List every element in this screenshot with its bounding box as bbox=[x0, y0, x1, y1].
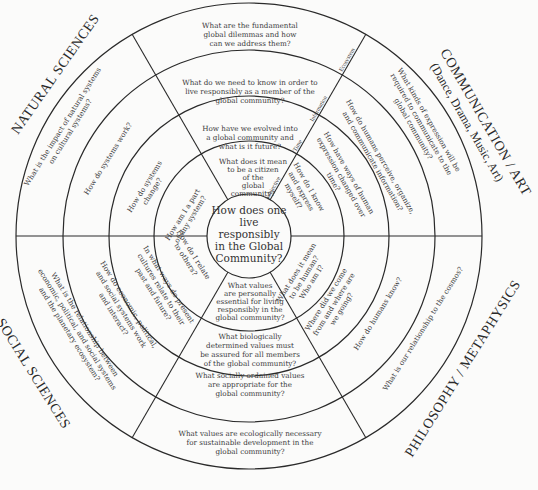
svg-text:of the global community?: of the global community? bbox=[204, 359, 297, 368]
svg-text:in the Global: in the Global bbox=[215, 240, 284, 252]
svg-text:what is it future?: what is it future? bbox=[219, 142, 281, 151]
axis-label-ecosystem: Ecosystem bbox=[338, 47, 356, 73]
bottom-column: What values are personally essential for… bbox=[179, 281, 323, 456]
svg-text:How do humans know?: How do humans know? bbox=[352, 275, 405, 352]
svg-text:What are the fundamental: What are the fundamental bbox=[202, 21, 298, 30]
svg-text:Community?: Community? bbox=[216, 252, 283, 264]
top-q-ring4: What do we need to know in order to live… bbox=[182, 78, 317, 105]
svg-text:What do we need to know in ord: What do we need to know in order to bbox=[182, 78, 317, 87]
bottom-q-ring2: What values are personally essential for… bbox=[215, 281, 284, 322]
svg-text:How does one: How does one bbox=[211, 204, 286, 216]
lower-right-questions: What does it mean to be human? Who am I?… bbox=[274, 241, 465, 393]
svg-text:global community?: global community? bbox=[215, 447, 284, 456]
svg-text:What biologically: What biologically bbox=[218, 332, 282, 341]
svg-text:for sustainable development in: for sustainable development in the bbox=[187, 438, 314, 447]
bottom-q-outer: What values are ecologically necessary f… bbox=[179, 429, 323, 456]
center-question: How does one live responsibly in the Glo… bbox=[211, 204, 286, 264]
lr-q-ring4: How do humans know? bbox=[352, 275, 405, 352]
svg-text:How do systems work?: How do systems work? bbox=[82, 121, 134, 197]
global-community-diagram: How does one live responsibly in the Glo… bbox=[0, 0, 538, 490]
top-q-outer: What are the fundamental global dilemmas… bbox=[202, 21, 298, 48]
svg-text:a global community and: a global community and bbox=[206, 133, 294, 142]
svg-text:global community?: global community? bbox=[215, 389, 284, 398]
svg-text:be assured for all members: be assured for all members bbox=[200, 350, 300, 359]
svg-text:are appropriate for the: are appropriate for the bbox=[208, 380, 292, 389]
svg-text:What socially ordained values: What socially ordained values bbox=[196, 371, 305, 380]
sector-philosophy: PHILOSOPHY / METAPHYSICS bbox=[402, 277, 524, 459]
svg-text:What is the impact of natural: What is the impact of natural systems bbox=[22, 65, 103, 187]
svg-text:How have we evolved into: How have we evolved into bbox=[202, 124, 298, 133]
svg-text:global community?: global community? bbox=[215, 96, 284, 105]
ul-q-ring4: How do systems work? bbox=[82, 121, 134, 197]
svg-text:responsibly: responsibly bbox=[218, 228, 279, 240]
svg-text:What values are ecologically n: What values are ecologically necessary bbox=[179, 429, 323, 438]
sector-natural-sciences: NATURAL SCIENCES bbox=[8, 11, 102, 136]
svg-text:determined values must: determined values must bbox=[206, 341, 294, 350]
svg-text:global dilemmas and how: global dilemmas and how bbox=[204, 30, 298, 39]
svg-text:can we address them?: can we address them? bbox=[209, 39, 290, 48]
svg-text:live: live bbox=[240, 216, 259, 228]
svg-text:live responsibly as a member o: live responsibly as a member of the bbox=[185, 87, 315, 96]
bottom-q-ring3: What biologically determined values must… bbox=[200, 332, 300, 368]
lower-left-questions: How do I relate to others? In what ways … bbox=[28, 228, 212, 396]
ul-q-ring3: How do systems change? bbox=[125, 159, 172, 219]
bottom-q-ring4: What socially ordained values are approp… bbox=[196, 371, 305, 398]
svg-text:global community?: global community? bbox=[215, 313, 284, 322]
